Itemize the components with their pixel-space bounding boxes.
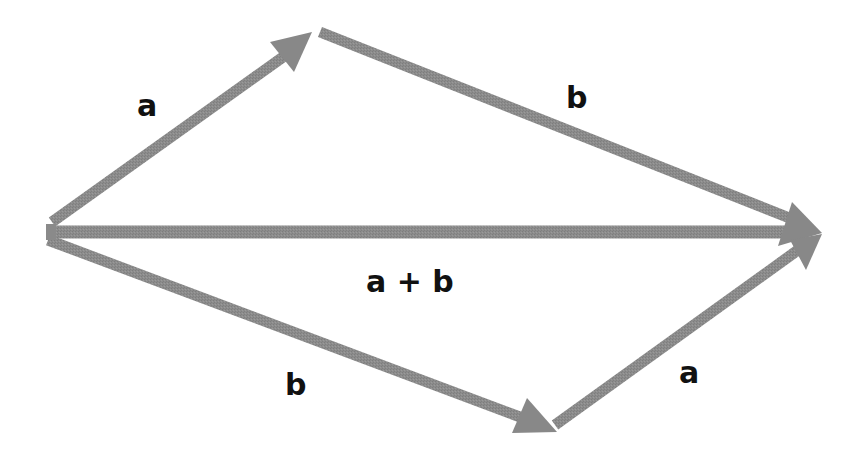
label-a-bottom: a <box>679 355 699 390</box>
origin-point <box>46 224 56 240</box>
vector-b-bottom-arrow <box>48 240 557 433</box>
label-b-top: b <box>566 80 587 115</box>
vector-a-bottom-arrow <box>555 234 822 425</box>
label-sum: a + b <box>366 264 454 299</box>
vector-a-top-arrow <box>52 32 312 222</box>
vector-addition-diagram: a b a + b b a <box>0 0 863 451</box>
vector-b-top-arrow <box>320 32 822 246</box>
label-b-bottom: b <box>285 367 306 402</box>
label-a-top: a <box>137 88 157 123</box>
